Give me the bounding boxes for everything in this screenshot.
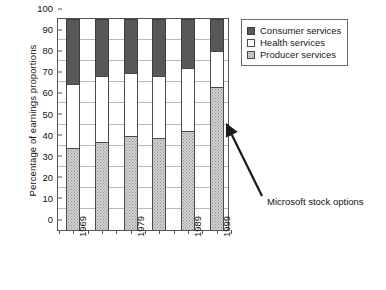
bar-segment-health xyxy=(95,76,109,142)
x-axis-tick xyxy=(59,230,60,234)
legend-swatch-health xyxy=(247,39,255,47)
gridline xyxy=(58,102,228,103)
y-axis-tick-label: 10 xyxy=(42,192,58,203)
gridline xyxy=(58,124,228,125)
y-axis-tick-label: 90 xyxy=(42,24,58,35)
bar-segment-health xyxy=(152,76,166,138)
annotation-label: Microsoft stock options xyxy=(267,196,364,207)
legend-item: Producer services xyxy=(247,49,341,60)
gridline xyxy=(58,145,228,146)
bar xyxy=(181,19,195,230)
x-axis-tick xyxy=(217,230,218,234)
gridline xyxy=(58,81,228,82)
gridline xyxy=(58,166,228,167)
bar xyxy=(95,19,109,230)
bar-segment-health xyxy=(66,84,80,147)
bar-segment-health xyxy=(210,51,224,87)
y-axis-tick-label: 40 xyxy=(42,129,58,140)
x-axis-tick xyxy=(145,230,146,234)
x-axis-tick xyxy=(159,230,160,234)
legend-item: Health services xyxy=(247,37,341,48)
y-axis-title: Percentage of earnings proportions xyxy=(27,21,38,221)
x-axis-tick xyxy=(188,230,189,234)
bar xyxy=(124,19,138,230)
x-axis-tick xyxy=(202,230,203,234)
bar-segment-consumer xyxy=(66,19,80,84)
x-axis-tick-label: 1979 xyxy=(135,216,146,237)
legend: Consumer servicesHealth servicesProducer… xyxy=(241,19,348,66)
bar-segment-health xyxy=(181,68,195,131)
bar-segment-consumer xyxy=(124,19,138,73)
gridline xyxy=(58,208,228,209)
legend-label: Producer services xyxy=(260,49,336,60)
bar-segment-consumer xyxy=(152,19,166,76)
legend-swatch-consumer xyxy=(247,27,255,35)
y-axis-tick-label: 0 xyxy=(48,214,58,225)
bar xyxy=(66,19,80,230)
y-axis-tick-label: 80 xyxy=(42,45,58,56)
x-axis-tick xyxy=(131,230,132,234)
gridline xyxy=(58,39,228,40)
legend-swatch-producer xyxy=(247,51,255,59)
x-axis-tick xyxy=(73,230,74,234)
x-axis-tick xyxy=(231,230,232,234)
bar-segment-consumer xyxy=(95,19,109,76)
y-axis-tick-label: 50 xyxy=(42,108,58,119)
y-axis-tick-label: 70 xyxy=(42,66,58,77)
x-axis-tick xyxy=(88,230,89,234)
plot-area: 0102030405060708090100 1969197919891999 xyxy=(57,18,229,231)
legend-label: Consumer services xyxy=(260,25,341,36)
y-axis-tick-label: 30 xyxy=(42,150,58,161)
x-axis-tick xyxy=(102,230,103,234)
bar-segment-consumer xyxy=(181,19,195,68)
bar-segment-health xyxy=(124,73,138,136)
bar-segment-producer xyxy=(95,142,109,230)
legend-label: Health services xyxy=(260,37,325,48)
legend-item: Consumer services xyxy=(247,25,341,36)
y-axis-tick-label: 60 xyxy=(42,87,58,98)
bar xyxy=(210,19,224,230)
y-axis-tick-label: 100 xyxy=(37,3,58,14)
stacked-bar-chart: Percentage of earnings proportions 01020… xyxy=(0,0,386,290)
bar-segment-producer xyxy=(152,138,166,230)
bar-segment-producer xyxy=(210,87,224,230)
y-axis-tick-label: 20 xyxy=(42,171,58,182)
x-axis-tick xyxy=(116,230,117,234)
bar xyxy=(152,19,166,230)
gridline xyxy=(58,187,228,188)
gridline xyxy=(58,60,228,61)
bar-segment-consumer xyxy=(210,19,224,51)
x-axis-tick-label: 1999 xyxy=(221,216,232,237)
x-axis-tick xyxy=(174,230,175,234)
